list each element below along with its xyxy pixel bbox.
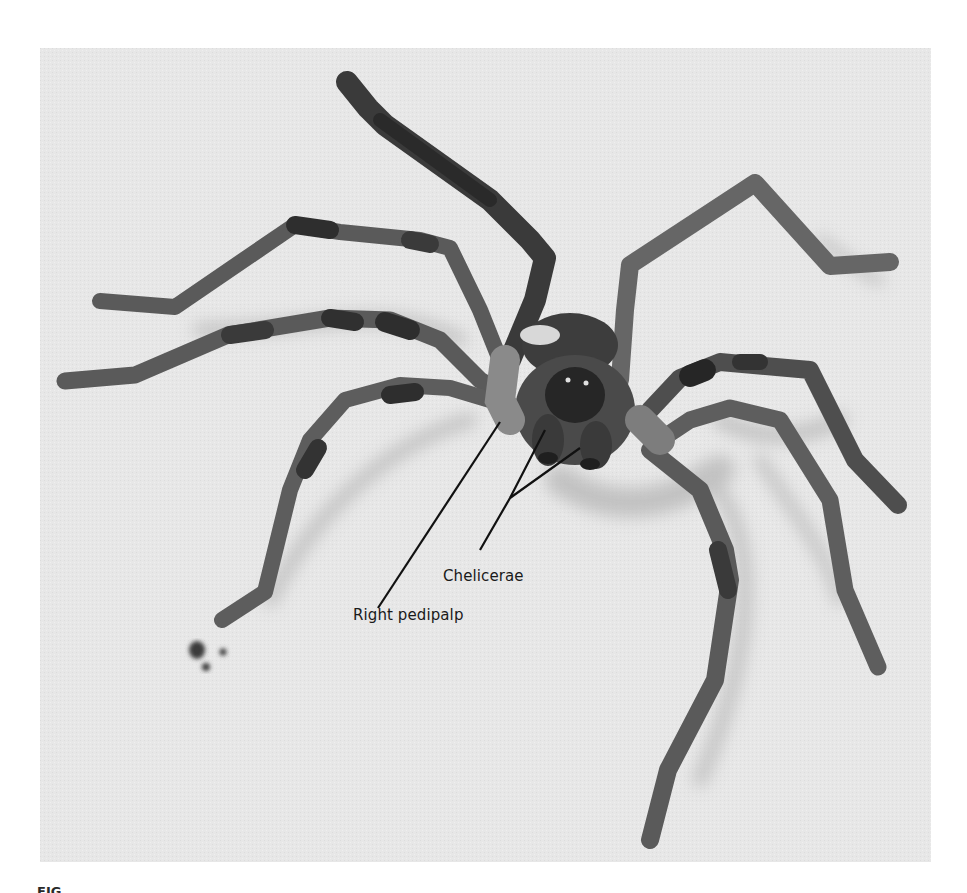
figure: Chelicerae Right pedipalp FIG. bbox=[0, 0, 967, 893]
spider-illustration bbox=[40, 48, 931, 862]
spider-photo bbox=[40, 48, 931, 862]
label-chelicerae: Chelicerae bbox=[443, 567, 524, 585]
label-right-pedipalp: Right pedipalp bbox=[353, 606, 464, 624]
figure-caption: FIG. bbox=[37, 884, 66, 893]
